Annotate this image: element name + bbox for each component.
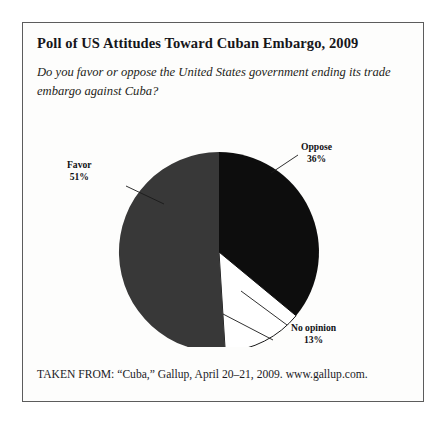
leader-line-oppose — [271, 155, 298, 173]
pie-label-oppose-value: 36% — [301, 153, 332, 165]
pie-label-favor-value: 51% — [67, 171, 92, 183]
pie-label-no-opinion-name: No opinion — [291, 322, 336, 334]
pie-chart-svg — [23, 107, 423, 347]
pie-chart: Favor 51% Oppose 36% No opinion 13% — [23, 107, 423, 347]
pie-label-no-opinion-value: 13% — [291, 334, 336, 346]
figure-container: Poll of US Attitudes Toward Cuban Embarg… — [22, 22, 424, 402]
pie-label-oppose: Oppose 36% — [301, 141, 332, 165]
pie-slice-favor — [119, 152, 225, 347]
pie-label-favor-name: Favor — [67, 159, 92, 171]
pie-label-favor: Favor 51% — [67, 159, 92, 183]
poll-question: Do you favor or oppose the United States… — [37, 63, 409, 101]
page-title: Poll of US Attitudes Toward Cuban Embarg… — [37, 35, 358, 52]
pie-label-oppose-name: Oppose — [301, 141, 332, 153]
source-citation: TAKEN FROM: “Cuba,” Gallup, April 20–21,… — [37, 368, 368, 381]
pie-label-no-opinion: No opinion 13% — [291, 322, 336, 346]
